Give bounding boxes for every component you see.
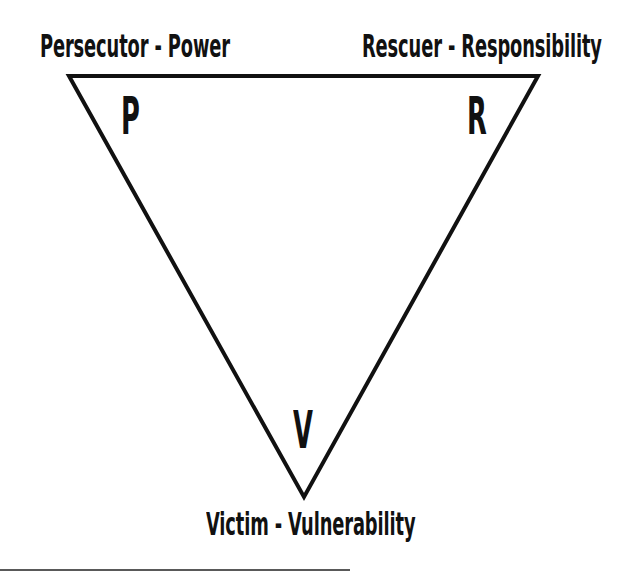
persecutor-letter: P bbox=[121, 86, 140, 146]
rescuer-letter: R bbox=[467, 86, 487, 146]
victim-label: Victim - Vulnerability bbox=[206, 505, 415, 543]
triangle-diagram bbox=[0, 0, 629, 585]
victim-letter: V bbox=[293, 400, 313, 460]
persecutor-label: Persecutor - Power bbox=[40, 27, 230, 65]
rescuer-label: Rescuer - Responsibility bbox=[362, 27, 602, 65]
